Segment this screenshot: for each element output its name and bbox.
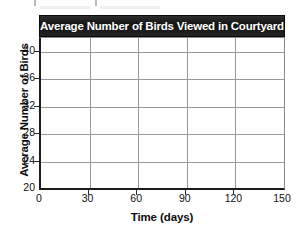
x-tick-mark <box>233 190 234 195</box>
x-tick-label: 150 <box>262 192 299 204</box>
y-tick-mark <box>34 133 39 134</box>
x-tick-mark <box>88 190 89 195</box>
y-tick-mark <box>34 78 39 79</box>
x-axis-title: Time (days) <box>39 211 285 223</box>
x-tick-mark <box>185 190 186 195</box>
x-axis-tick-labels: 0306090120150 <box>0 0 299 234</box>
y-tick-mark <box>34 161 39 162</box>
y-tick-mark <box>34 106 39 107</box>
x-tick-mark <box>136 190 137 195</box>
x-tick-label: 0 <box>19 192 59 204</box>
y-tick-mark <box>34 51 39 52</box>
chart-figure: Average Number of Birds Average Number o… <box>0 0 299 234</box>
